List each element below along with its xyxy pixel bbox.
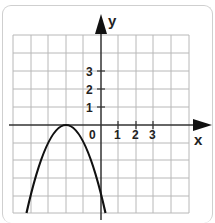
x-axis-arrow-icon: [193, 119, 212, 131]
y-axis-arrow-icon: [95, 14, 107, 34]
coordinate-plane: [0, 0, 215, 223]
y-axis: [95, 14, 107, 220]
x-axis: [9, 119, 212, 131]
x-tick-label-1: 1: [114, 129, 121, 141]
origin-label: 0: [89, 129, 96, 141]
y-tick-label-1: 1: [86, 102, 93, 114]
x-tick-label-2: 2: [132, 129, 139, 141]
y-tick-label-2: 2: [86, 84, 93, 96]
y-axis-label: y: [108, 13, 116, 28]
y-tick-label-3: 3: [86, 66, 93, 78]
x-tick-label-3: 3: [149, 129, 156, 141]
x-axis-label: x: [194, 132, 202, 147]
